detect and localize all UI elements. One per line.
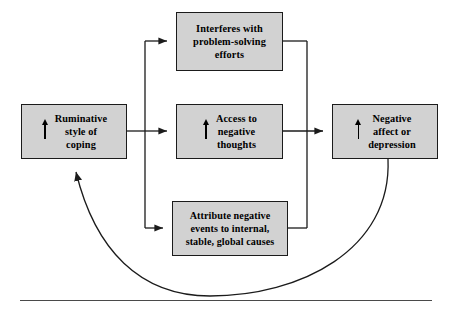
up-arrow-icon-access — [202, 119, 211, 143]
node-ruminative-style-of-coping: Ruminative style of coping — [21, 104, 127, 159]
node-label-ruminative: Ruminative style of coping — [55, 112, 107, 152]
node-label-access: Access to negative thoughts — [216, 112, 257, 152]
node-label-negative-affect: Negative affect or depression — [368, 112, 416, 152]
node-label-interferes: Interferes with problem-solving efforts — [193, 22, 266, 62]
figure-bottom-rule — [20, 300, 432, 301]
up-arrow-icon-ruminative — [41, 119, 50, 143]
node-attribute-negative-events: Attribute negative events to internal, s… — [172, 201, 288, 256]
node-interferes-with-problem-solving: Interferes with problem-solving efforts — [176, 12, 283, 71]
up-arrow-icon-negative-affect — [354, 119, 363, 143]
node-access-to-negative-thoughts: Access to negative thoughts — [176, 104, 283, 159]
node-negative-affect-or-depression: Negative affect or depression — [332, 104, 438, 159]
node-label-attribute: Attribute negative events to internal, s… — [186, 209, 275, 248]
flow-diagram-figure: Ruminative style of coping Interferes wi… — [0, 0, 452, 312]
